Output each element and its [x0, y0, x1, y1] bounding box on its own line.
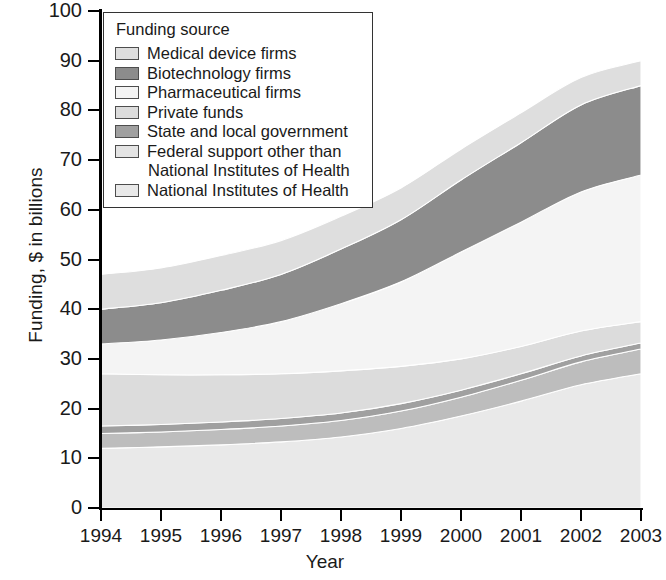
y-axis-tick-label: 10: [22, 447, 82, 467]
legend-swatch-icon: [115, 67, 139, 80]
y-axis-tick: [88, 507, 100, 509]
x-axis-tick: [400, 510, 402, 521]
x-axis-tick: [280, 510, 282, 521]
legend-items: Medical device firmsBiotechnology firmsP…: [114, 44, 364, 200]
x-axis-tick-label: 2003: [606, 525, 666, 547]
legend-item: Medical device firms: [114, 44, 364, 64]
y-axis-title: Funding, $ in billions: [25, 115, 47, 395]
y-axis-tick-label: 20: [22, 398, 82, 418]
legend-item-label: Federal support other than: [147, 142, 341, 162]
y-axis-tick-label: 90: [22, 50, 82, 70]
x-axis-tick: [640, 510, 642, 521]
x-axis-line: [99, 508, 643, 511]
legend-item-label: Pharmaceutical firms: [147, 83, 301, 103]
legend-swatch-icon: [115, 47, 139, 60]
x-axis-tick: [580, 510, 582, 521]
legend-swatch-icon: [115, 106, 139, 119]
legend-swatch-icon: [115, 86, 139, 99]
legend-item: National Institutes of Health: [114, 181, 364, 201]
y-axis-tick: [88, 209, 100, 211]
x-axis-title: Year: [0, 551, 650, 573]
x-axis-tick: [100, 510, 102, 521]
legend-item-label: Medical device firms: [147, 44, 296, 64]
legend-item: Federal support other than: [114, 142, 364, 162]
y-axis-tick: [88, 60, 100, 62]
legend-swatch-icon: [115, 184, 139, 197]
y-axis-tick-label: 100: [22, 0, 82, 20]
x-axis-tick: [520, 510, 522, 521]
y-axis-tick: [88, 109, 100, 111]
x-axis-tick: [340, 510, 342, 521]
x-axis-tick: [220, 510, 222, 521]
legend-item-label: Private funds: [147, 103, 243, 123]
y-axis-tick: [88, 358, 100, 360]
legend: Funding source Medical device firmsBiote…: [103, 12, 373, 208]
legend-item-label-continuation: National Institutes of Health: [114, 161, 364, 181]
legend-item: Pharmaceutical firms: [114, 83, 364, 103]
y-axis-tick: [88, 159, 100, 161]
legend-item-label: State and local government: [147, 122, 348, 142]
y-axis-tick: [88, 259, 100, 261]
legend-item: Private funds: [114, 103, 364, 123]
legend-item: Biotechnology firms: [114, 64, 364, 84]
y-axis-tick: [88, 457, 100, 459]
y-axis-tick: [88, 10, 100, 12]
legend-item-label: Biotechnology firms: [147, 64, 291, 84]
legend-item: State and local government: [114, 122, 364, 142]
y-axis-tick: [88, 408, 100, 410]
x-axis-tick: [160, 510, 162, 521]
y-axis-tick-label: 0: [22, 497, 82, 517]
legend-swatch-icon: [115, 145, 139, 158]
legend-item-label: National Institutes of Health: [147, 181, 349, 201]
legend-title: Funding source: [116, 20, 364, 39]
y-axis-tick: [88, 308, 100, 310]
x-axis-tick: [460, 510, 462, 521]
legend-swatch-icon: [115, 125, 139, 138]
